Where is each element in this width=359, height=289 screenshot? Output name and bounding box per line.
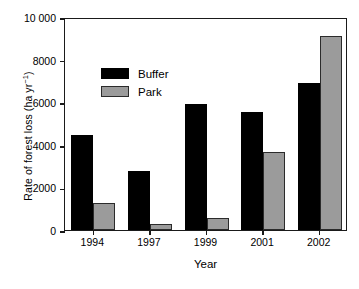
x-axis-tick-label: 2001 xyxy=(250,236,273,248)
legend-swatch-icon-park xyxy=(101,86,129,97)
bar-park-2002 xyxy=(320,36,342,230)
legend-label: Buffer xyxy=(138,68,168,80)
bar-chart: Rate of forest loss (ha yr−1) 0200040006… xyxy=(0,0,359,289)
bar-park-1999 xyxy=(207,218,229,230)
chart-legend: BufferPark xyxy=(101,65,168,101)
bar-buffer-2002 xyxy=(298,83,320,230)
bar-buffer-1994 xyxy=(71,135,93,230)
legend-item-buffer: Buffer xyxy=(101,65,168,82)
x-axis-tick-label: 1994 xyxy=(81,236,104,248)
plot-area xyxy=(64,18,347,231)
bar-park-2001 xyxy=(263,152,285,230)
y-axis-tick-label: 10 000 xyxy=(24,12,56,24)
bar-buffer-1997 xyxy=(128,171,150,230)
y-axis-tick-labels: 0200040006000800010 000 xyxy=(0,0,56,289)
x-axis-tick-label: 1999 xyxy=(194,236,217,248)
x-axis-tick xyxy=(93,230,95,235)
bar-park-1994 xyxy=(93,203,115,230)
legend-item-park: Park xyxy=(101,83,168,100)
x-axis-tick xyxy=(149,230,151,235)
y-axis-tick-label: 2000 xyxy=(33,182,56,194)
bar-park-1997 xyxy=(150,224,172,230)
y-axis-tick-label: 0 xyxy=(50,225,56,237)
y-axis-tick xyxy=(60,18,65,20)
y-axis-tick xyxy=(60,61,65,63)
legend-label: Park xyxy=(138,86,162,98)
y-axis-tick xyxy=(60,231,65,233)
x-axis-tick xyxy=(206,230,208,235)
y-axis-tick xyxy=(60,189,65,191)
x-axis-tick-label: 2002 xyxy=(307,236,330,248)
y-axis-tick-label: 8000 xyxy=(33,55,56,67)
y-axis-tick xyxy=(60,146,65,148)
x-axis-tick-label: 1997 xyxy=(137,236,160,248)
bar-buffer-2001 xyxy=(241,112,263,230)
y-axis-tick-label: 6000 xyxy=(33,97,56,109)
x-axis-tick xyxy=(262,230,264,235)
x-axis-title: Year xyxy=(64,258,347,270)
y-axis-tick-label: 4000 xyxy=(33,140,56,152)
legend-swatch-icon-buffer xyxy=(101,68,129,79)
y-axis-tick xyxy=(60,103,65,105)
x-axis-tick xyxy=(319,230,321,235)
bar-buffer-1999 xyxy=(185,104,207,230)
